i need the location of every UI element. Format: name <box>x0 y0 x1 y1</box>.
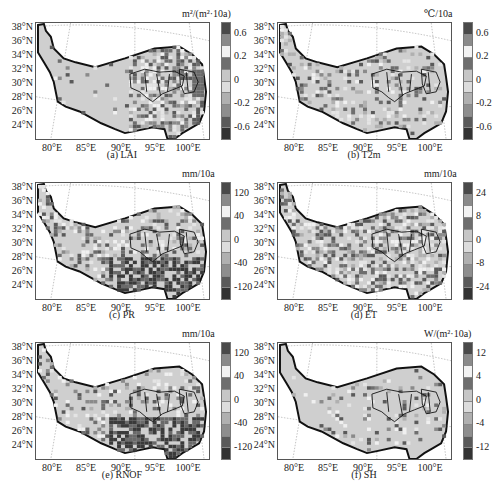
map-panel-d-et: mm/10a <box>242 160 490 323</box>
colorbar-swatch <box>464 277 472 289</box>
plateau-map <box>278 183 451 299</box>
latitude-tick-label: 26°N <box>12 426 33 436</box>
map-frame <box>277 342 452 460</box>
colorbar-swatch <box>464 253 472 265</box>
colorbar <box>221 182 231 300</box>
colorbar-swatch <box>464 425 472 437</box>
plateau-map <box>278 343 451 459</box>
colorbar-tick-label: 0.2 <box>476 51 489 61</box>
latitude-tick-label: 38°N <box>254 342 275 352</box>
latitude-tick-label: 30°N <box>254 398 275 408</box>
colorbar-swatch <box>222 366 230 378</box>
colorbar-swatch <box>222 437 230 449</box>
plateau-map <box>278 23 451 139</box>
latitude-tick-label: 30°N <box>12 398 33 408</box>
latitude-tick-label: 30°N <box>254 238 275 248</box>
longitude-tick-label: 85°E <box>318 462 338 473</box>
panel-caption: (a) LAI <box>107 149 137 160</box>
longitude-tick-label: 80°E <box>284 462 304 473</box>
map-panel-f-sh: W/(m²·10a) <box>242 320 490 483</box>
colorbar-swatch <box>464 288 472 299</box>
longitude-tick-label: 85°E <box>76 142 96 153</box>
latitude-tick-label: 36°N <box>12 36 33 46</box>
colorbar-tick-label: -8 <box>476 258 484 268</box>
longitude-tick-label: 85°E <box>318 142 338 153</box>
longitude-tick-label: 100°E <box>417 142 442 153</box>
colorbar-swatch <box>464 355 472 367</box>
colorbar-swatch <box>464 105 472 117</box>
colorbar <box>463 342 473 460</box>
colorbar-swatch <box>222 230 230 242</box>
longitude-tick-label: 80°E <box>42 302 62 313</box>
colorbar-swatch <box>464 35 472 47</box>
colorbar-swatch <box>222 402 230 414</box>
latitude-tick-label: 24°N <box>12 440 33 450</box>
colorbar-swatch <box>464 23 472 35</box>
colorbar-swatch <box>464 437 472 449</box>
longitude-tick-label: 95°E <box>387 142 407 153</box>
colorbar-swatch <box>464 70 472 82</box>
latitude-tick-label: 34°N <box>12 370 33 380</box>
longitude-tick-label: 80°E <box>284 142 304 153</box>
latitude-tick-label: 26°N <box>12 106 33 116</box>
colorbar-swatch <box>222 242 230 254</box>
colorbar-swatch <box>222 117 230 129</box>
colorbar-swatch <box>222 128 230 139</box>
latitude-tick-label: 32°N <box>254 224 275 234</box>
colorbar-tick-label: 0 <box>476 75 481 85</box>
colorbar-swatch <box>222 23 230 35</box>
colorbar-tick-label: -4 <box>476 418 484 428</box>
latitude-tick-label: 38°N <box>12 22 33 32</box>
colorbar-unit: W/(m²·10a) <box>424 328 471 339</box>
colorbar-swatch <box>464 206 472 218</box>
map-frame <box>277 182 452 300</box>
colorbar-swatch <box>464 82 472 94</box>
colorbar-swatch <box>464 93 472 105</box>
latitude-tick-label: 38°N <box>12 342 33 352</box>
colorbar-swatch <box>222 265 230 277</box>
colorbar <box>221 22 231 140</box>
colorbar-swatch <box>222 70 230 82</box>
map-panel-b-t2m: ℃/10a <box>242 0 490 163</box>
longitude-tick-label: 100°E <box>417 462 442 473</box>
map-panel-c-pr: mm/10a <box>0 160 248 323</box>
panel-caption: (c) PR <box>109 309 135 320</box>
colorbar-swatch <box>464 183 472 195</box>
colorbar-swatch <box>222 343 230 355</box>
longitude-tick-label: 85°E <box>76 302 96 313</box>
latitude-tick-label: 28°N <box>254 252 275 262</box>
latitude-tick-label: 24°N <box>254 440 275 450</box>
colorbar-tick-label: 12 <box>476 348 486 358</box>
colorbar-swatch <box>464 265 472 277</box>
colorbar-swatch <box>464 448 472 459</box>
latitude-tick-label: 32°N <box>12 384 33 394</box>
panel-caption: (b) T2m <box>348 149 381 160</box>
longitude-tick-label: 95°E <box>387 462 407 473</box>
latitude-tick-label: 38°N <box>254 22 275 32</box>
latitude-tick-label: 34°N <box>12 50 33 60</box>
colorbar-swatch <box>222 253 230 265</box>
colorbar-swatch <box>222 195 230 207</box>
latitude-tick-label: 32°N <box>254 64 275 74</box>
colorbar-swatch <box>222 277 230 289</box>
latitude-tick-label: 28°N <box>12 252 33 262</box>
colorbar-tick-label: 0 <box>476 235 481 245</box>
panel-caption: (f) SH <box>351 469 376 480</box>
plateau-map <box>36 183 209 299</box>
latitude-tick-label: 36°N <box>254 36 275 46</box>
longitude-tick-label: 100°E <box>175 462 200 473</box>
latitude-tick-label: 26°N <box>12 266 33 276</box>
latitude-tick-label: 24°N <box>254 120 275 130</box>
colorbar-swatch <box>222 218 230 230</box>
latitude-tick-label: 30°N <box>12 238 33 248</box>
latitude-tick-label: 36°N <box>254 196 275 206</box>
latitude-tick-label: 34°N <box>254 370 275 380</box>
colorbar-swatch <box>464 378 472 390</box>
colorbar-swatch <box>222 355 230 367</box>
plateau-map <box>36 23 209 139</box>
latitude-tick-label: 36°N <box>12 356 33 366</box>
latitude-tick-label: 28°N <box>12 412 33 422</box>
colorbar <box>221 342 231 460</box>
colorbar-swatch <box>222 448 230 459</box>
colorbar <box>463 22 473 140</box>
